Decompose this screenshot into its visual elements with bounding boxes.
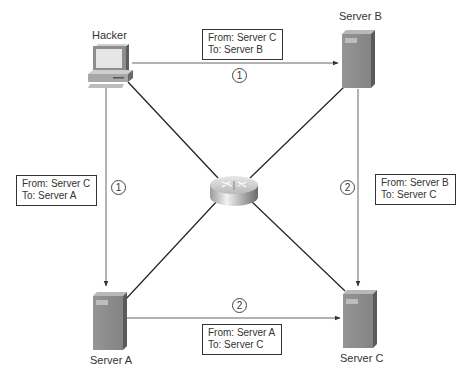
message-from: From: Server C xyxy=(22,178,90,190)
message-from: From: Server C xyxy=(208,32,276,44)
server-b-label: Server B xyxy=(339,10,382,22)
link-serverb-router xyxy=(250,87,344,178)
message-servera-to-serverc: From: Server A To: Server C xyxy=(202,324,282,355)
step-badge-hacker-to-serverb: 1 xyxy=(232,68,247,83)
server-a-label: Server A xyxy=(90,354,132,366)
link-hacker-router xyxy=(128,82,218,178)
message-to: To: Server C xyxy=(381,189,449,201)
message-hacker-to-serverb: From: Server C To: Server B xyxy=(202,29,283,60)
router-icon xyxy=(210,176,258,206)
link-servera-router xyxy=(125,200,218,300)
step-badge-serverb-to-serverc: 2 xyxy=(340,180,355,195)
message-to: To: Server C xyxy=(208,339,275,351)
server-b-icon xyxy=(342,30,375,88)
step-badge-hacker-to-servera: 1 xyxy=(111,180,126,195)
hacker-label: Hacker xyxy=(92,29,127,41)
message-serverb-to-serverc: From: Server B To: Server C xyxy=(375,174,456,205)
server-a-icon xyxy=(93,292,127,350)
message-to: To: Server A xyxy=(22,190,90,202)
message-from: From: Server B xyxy=(381,177,449,189)
step-badge-servera-to-serverc: 2 xyxy=(232,298,247,313)
link-serverc-router xyxy=(250,200,345,291)
workstation-icon xyxy=(88,44,133,88)
server-c-label: Server C xyxy=(340,352,383,364)
message-to: To: Server B xyxy=(208,44,276,56)
message-hacker-to-servera: From: Server C To: Server A xyxy=(16,175,97,206)
message-from: From: Server A xyxy=(208,327,275,339)
server-c-icon xyxy=(343,290,377,348)
